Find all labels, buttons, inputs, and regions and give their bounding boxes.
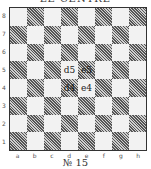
square-label: e4 xyxy=(80,83,93,93)
square-a8 xyxy=(10,8,27,26)
square-e4: e4 xyxy=(78,79,95,97)
square-e7 xyxy=(78,26,95,44)
square-b8 xyxy=(27,8,44,26)
square-c5 xyxy=(44,61,61,79)
square-d5: d5 xyxy=(61,61,78,79)
square-c8 xyxy=(44,8,61,26)
square-g7 xyxy=(112,26,129,44)
square-g8 xyxy=(112,8,129,26)
square-f7 xyxy=(95,26,112,44)
square-e8 xyxy=(78,8,95,26)
rank-label: 8 xyxy=(1,12,7,19)
square-h5 xyxy=(129,61,146,79)
square-f1 xyxy=(95,132,112,150)
square-f8 xyxy=(95,8,112,26)
square-a3 xyxy=(10,97,27,115)
square-a2 xyxy=(10,115,27,133)
square-b2 xyxy=(27,115,44,133)
diagram-caption: № 15 xyxy=(0,157,151,168)
square-label: d5 xyxy=(63,65,77,75)
square-d1 xyxy=(61,132,78,150)
square-e6 xyxy=(78,44,95,62)
rank-label: 5 xyxy=(1,66,7,73)
square-e1 xyxy=(78,132,95,150)
square-c2 xyxy=(44,115,61,133)
square-a4 xyxy=(10,79,27,97)
square-c6 xyxy=(44,44,61,62)
rank-label: 6 xyxy=(1,48,7,55)
square-c7 xyxy=(44,26,61,44)
square-g1 xyxy=(112,132,129,150)
square-g4 xyxy=(112,79,129,97)
rank-label: 3 xyxy=(1,102,7,109)
square-a7 xyxy=(10,26,27,44)
square-g6 xyxy=(112,44,129,62)
square-d7 xyxy=(61,26,78,44)
square-c1 xyxy=(44,132,61,150)
square-d2 xyxy=(61,115,78,133)
square-d8 xyxy=(61,8,78,26)
square-f5 xyxy=(95,61,112,79)
square-g2 xyxy=(112,115,129,133)
square-f3 xyxy=(95,97,112,115)
square-b4 xyxy=(27,79,44,97)
square-g5 xyxy=(112,61,129,79)
square-b6 xyxy=(27,44,44,62)
square-b1 xyxy=(27,132,44,150)
square-h3 xyxy=(129,97,146,115)
square-h1 xyxy=(129,132,146,150)
rank-label: 2 xyxy=(1,120,7,127)
rank-label: 7 xyxy=(1,30,7,37)
square-f4 xyxy=(95,79,112,97)
square-h8 xyxy=(129,8,146,26)
square-d6 xyxy=(61,44,78,62)
diagram-title: LE CENTRE xyxy=(0,0,151,4)
square-a5 xyxy=(10,61,27,79)
rank-label: 1 xyxy=(1,138,7,145)
square-g3 xyxy=(112,97,129,115)
square-b3 xyxy=(27,97,44,115)
square-c4 xyxy=(44,79,61,97)
square-h4 xyxy=(129,79,146,97)
square-c3 xyxy=(44,97,61,115)
square-d3 xyxy=(61,97,78,115)
square-b5 xyxy=(27,61,44,79)
square-h2 xyxy=(129,115,146,133)
square-h7 xyxy=(129,26,146,44)
square-h6 xyxy=(129,44,146,62)
square-e5: e5 xyxy=(78,61,95,79)
square-f6 xyxy=(95,44,112,62)
square-label: d4 xyxy=(63,83,77,93)
rank-label: 4 xyxy=(1,84,7,91)
square-f2 xyxy=(95,115,112,133)
square-e2 xyxy=(78,115,95,133)
square-b7 xyxy=(27,26,44,44)
square-d4: d4 xyxy=(61,79,78,97)
square-e3 xyxy=(78,97,95,115)
square-a6 xyxy=(10,44,27,62)
square-a1 xyxy=(10,132,27,150)
chessboard: d5e5d4e4 xyxy=(9,7,147,151)
square-label: e5 xyxy=(80,65,93,75)
